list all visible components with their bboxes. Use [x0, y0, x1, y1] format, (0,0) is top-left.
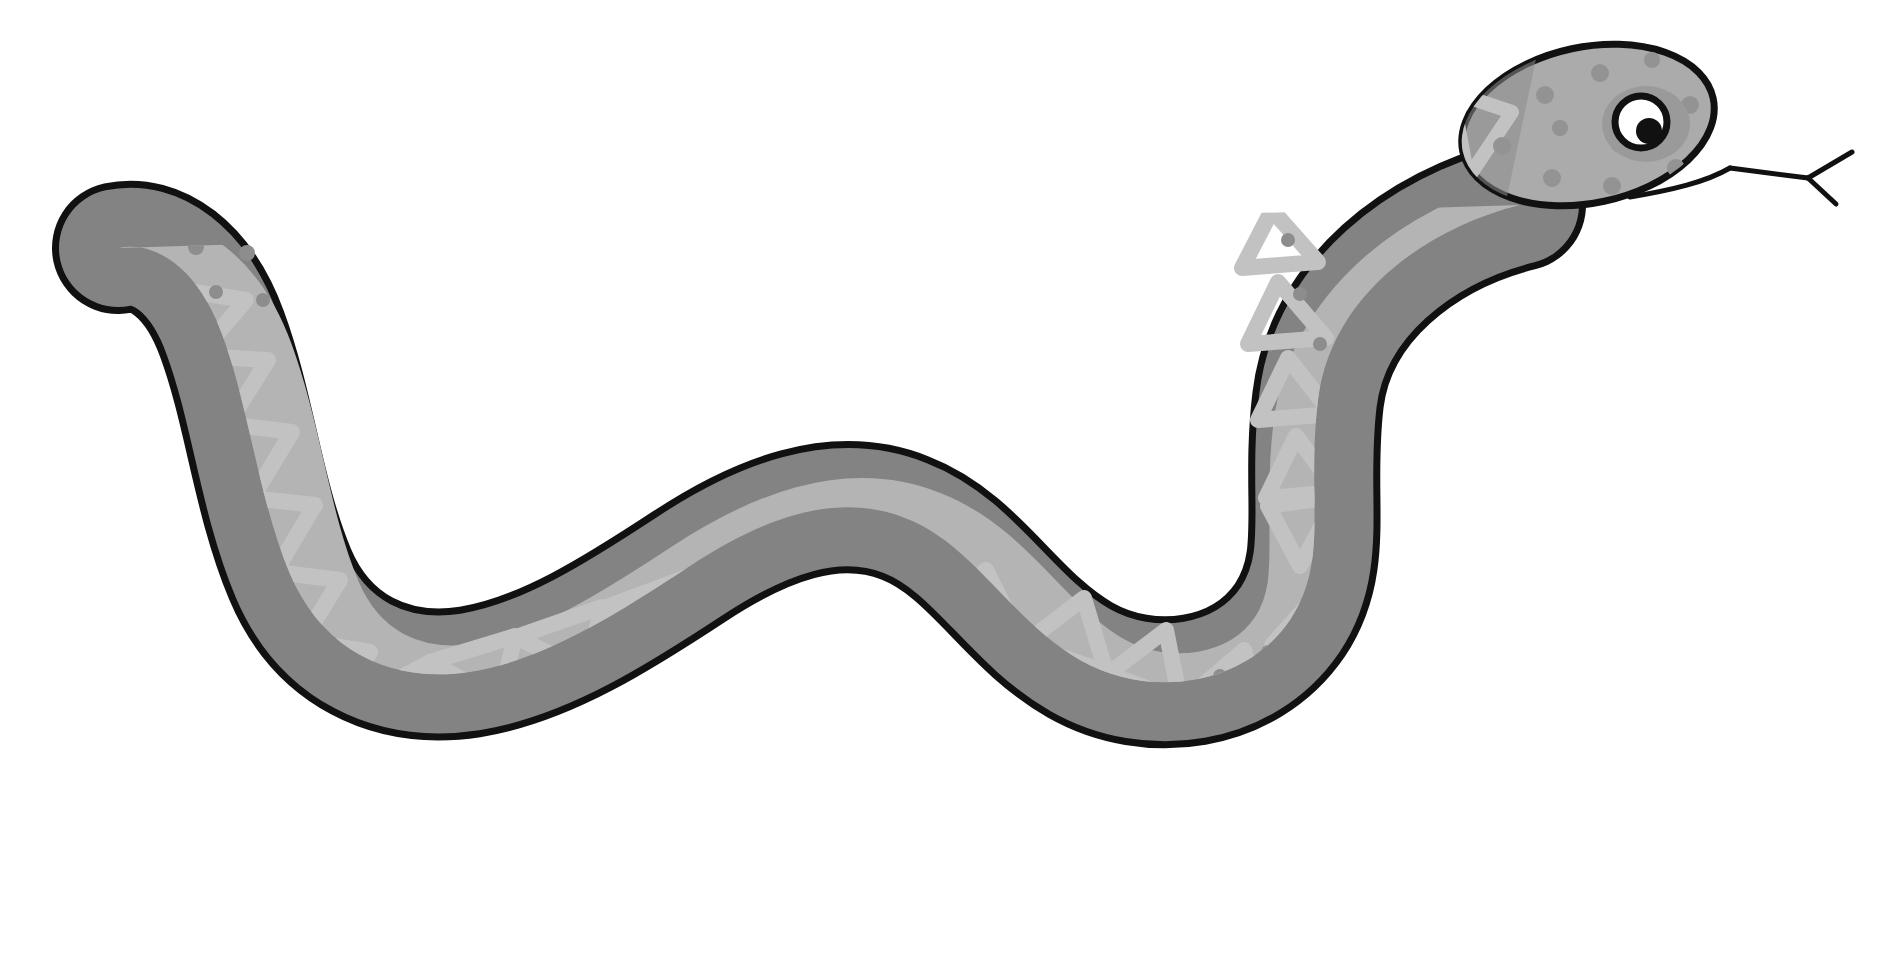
- tongue-fork-upper: [1808, 152, 1852, 178]
- tongue-stem: [1730, 168, 1808, 178]
- eye-highlight: [1629, 106, 1639, 116]
- eye-pupil: [1636, 118, 1662, 144]
- tongue: [1730, 152, 1852, 204]
- snake-body: [118, 142, 1534, 722]
- snake-illustration: [0, 0, 1903, 960]
- illustration-canvas: [0, 0, 1903, 960]
- eye: [1615, 96, 1667, 148]
- tongue-fork-lower: [1808, 178, 1836, 204]
